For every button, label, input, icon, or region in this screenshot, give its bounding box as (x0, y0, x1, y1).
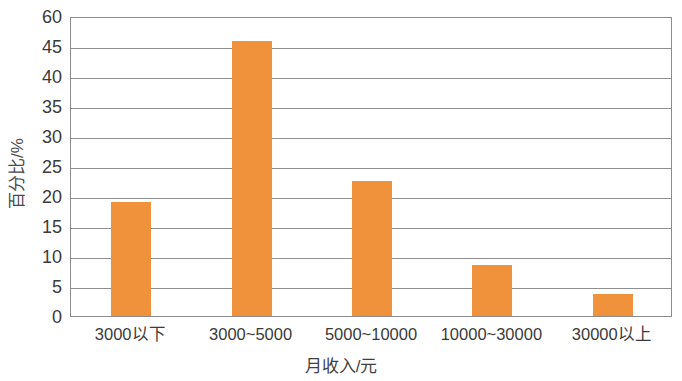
x-axis-title-text: 月收入/元 (305, 357, 378, 376)
bar (232, 41, 272, 316)
bar (352, 181, 392, 316)
y-axis-tick-label: 30 (42, 128, 62, 146)
x-axis-tick-label: 3000以下 (70, 322, 190, 346)
bar-chart-figure: 百分比/% 05101520253035404560 3000以下3000~50… (0, 0, 682, 381)
y-axis-tick-label: 25 (42, 158, 62, 176)
y-axis-tick-label: 0 (52, 308, 62, 326)
plot-area (70, 17, 672, 317)
y-axis-tick-label: 5 (52, 278, 62, 296)
bar (593, 294, 633, 316)
y-axis-tick-label: 35 (42, 98, 62, 116)
y-axis-tick-label: 60 (42, 8, 62, 26)
x-axis-tick-label: 30000以上 (552, 322, 672, 346)
x-axis-tick-label: 5000~10000 (311, 322, 431, 346)
y-axis-tick-label: 20 (42, 188, 62, 206)
y-axis-tick-label: 40 (42, 68, 62, 86)
x-axis-tick-label: 10000~30000 (431, 322, 551, 346)
y-axis-tick-label: 15 (42, 218, 62, 236)
bar (111, 202, 151, 316)
x-axis-tick-label: 3000~5000 (190, 322, 310, 346)
y-axis-tick-labels: 05101520253035404560 (24, 0, 66, 381)
x-axis-title: 月收入/元 (0, 352, 682, 377)
bar (472, 265, 512, 316)
y-axis-tick-label: 45 (42, 38, 62, 56)
bars (71, 18, 671, 316)
x-axis-tick-labels: 3000以下3000~50005000~1000010000~300003000… (70, 322, 672, 350)
y-axis-tick-label: 10 (42, 248, 62, 266)
